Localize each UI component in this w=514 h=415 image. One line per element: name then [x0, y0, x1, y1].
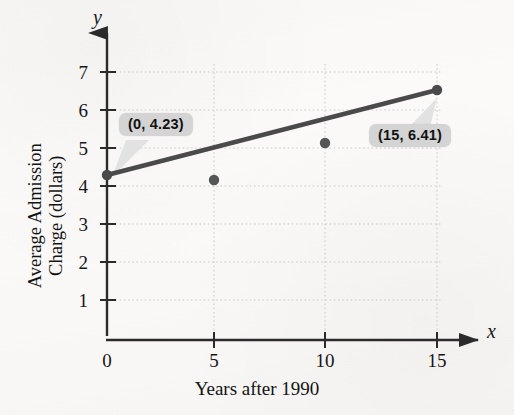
x-tick-label-5: 5	[199, 350, 229, 372]
y-tick-label-3: 3	[64, 214, 88, 236]
y-tick-label-7: 7	[64, 62, 88, 84]
point-label-right: (15, 6.41)	[369, 124, 451, 147]
horizontal-gridlines	[107, 72, 443, 300]
figure-container: y x 1 2 3 4 5 6 7 0 5 10 15 Average Admi…	[0, 0, 514, 415]
point-label-left: (0, 4.23)	[119, 113, 193, 136]
y-tick-label-1: 1	[64, 290, 88, 312]
data-point	[320, 138, 330, 148]
vertical-gridlines	[214, 64, 437, 340]
data-point	[432, 85, 442, 95]
y-axis-letter: y	[93, 6, 102, 29]
x-tick-label-15: 15	[422, 350, 452, 372]
y-axis-title: Average Admission Charge (dollars)	[25, 101, 66, 331]
y-tick-label-6: 6	[64, 100, 88, 122]
x-tick-label-0: 0	[92, 350, 122, 372]
data-point	[102, 170, 112, 180]
data-point	[209, 175, 219, 185]
x-axis-letter: x	[487, 320, 496, 343]
y-tick-label-2: 2	[64, 252, 88, 274]
y-tick-label-5: 5	[64, 138, 88, 160]
y-tick-label-4: 4	[64, 176, 88, 198]
x-axis-title: Years after 1990	[0, 378, 514, 400]
x-tick-label-10: 10	[310, 350, 340, 372]
